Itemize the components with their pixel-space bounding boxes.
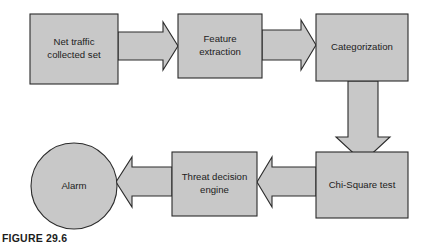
arrow-chi-square-test-to-threat-decision-engine bbox=[257, 157, 316, 207]
arrow-categorization-to-chi-square-test bbox=[336, 81, 390, 162]
figure-container: Net traffic collected set Feature extrac… bbox=[0, 0, 421, 250]
node-net-traffic-label-line2: collected set bbox=[47, 49, 101, 60]
node-threat-decision-engine-label-line1: Threat decision bbox=[182, 171, 248, 182]
flowchart-diagram: Net traffic collected set Feature extrac… bbox=[0, 0, 421, 250]
node-alarm-label-line1: Alarm bbox=[61, 180, 86, 191]
node-net-traffic-label-line1: Net traffic bbox=[54, 36, 95, 47]
node-chi-square-test[interactable]: Chi-Square test bbox=[316, 152, 408, 218]
node-categorization[interactable]: Categorization bbox=[316, 14, 408, 81]
node-categorization-label-line1: Categorization bbox=[331, 41, 393, 52]
node-feature-extraction-label-line1: Feature bbox=[203, 33, 236, 44]
arrow-feature-extraction-to-categorization bbox=[262, 20, 316, 70]
arrow-threat-decision-engine-to-alarm bbox=[116, 157, 172, 207]
node-threat-decision-engine-label-line2: engine bbox=[200, 184, 229, 195]
node-feature-extraction[interactable]: Feature extraction bbox=[178, 14, 262, 78]
arrow-net-traffic-to-feature-extraction bbox=[118, 22, 178, 70]
node-chi-square-test-label-line1: Chi-Square test bbox=[329, 179, 396, 190]
node-feature-extraction-label-line2: extraction bbox=[199, 46, 241, 57]
node-alarm[interactable]: Alarm bbox=[31, 143, 117, 229]
figure-caption: FIGURE 29.6 bbox=[2, 232, 67, 244]
node-threat-decision-engine[interactable]: Threat decision engine bbox=[172, 152, 257, 216]
node-net-traffic[interactable]: Net traffic collected set bbox=[30, 14, 118, 84]
